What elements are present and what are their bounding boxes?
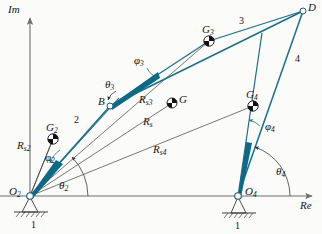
joint-d	[300, 8, 306, 14]
angle-arc-theta3	[108, 91, 116, 100]
link-number-1-right: 1	[235, 221, 240, 231]
link-number-1-left: 1	[31, 220, 36, 230]
link-number-2: 2	[74, 115, 79, 125]
joint-o2	[27, 193, 34, 200]
link-4-local-axis	[238, 33, 262, 197]
mass-center-g2	[48, 134, 58, 144]
angle-label-phi3: φ3	[134, 55, 144, 68]
joint-label-o4: O4	[245, 186, 257, 199]
mass-center-label-g3: G3	[202, 24, 214, 37]
ground-support-o2	[14, 197, 48, 217]
joint-o4	[235, 193, 242, 200]
link-number-3: 3	[239, 16, 244, 26]
joint-label-o2: O2	[9, 186, 21, 199]
mass-center-label-g4: G4	[246, 89, 258, 102]
linkage-diagram-svg	[0, 0, 322, 234]
angle-label-theta3: θ3	[105, 79, 114, 92]
re-axis-label: Re	[300, 200, 312, 211]
mass-center-g	[167, 98, 177, 108]
angle-label-phi2: φ2	[45, 152, 55, 165]
joint-b	[107, 103, 113, 109]
vector-label-rs2: Rs2	[17, 140, 30, 153]
joint-label-d: D	[308, 2, 316, 13]
mass-center-g3	[204, 36, 214, 46]
im-axis-label: Im	[8, 4, 20, 15]
figure-canvas: Im Re O2 B D O4 G2 G3 G4 G 1 1 2 3 4 Rs2…	[0, 0, 322, 234]
mass-center-g4	[248, 101, 258, 111]
angle-arc-phi4	[249, 120, 260, 126]
vector-label-rs3: Rs3	[139, 94, 152, 107]
mass-center-label-g: G	[179, 94, 187, 105]
link-2	[30, 98, 119, 198]
position-vector-rs3	[30, 41, 209, 196]
mass-center-label-g2: G2	[46, 122, 58, 135]
angle-label-theta4: θ4	[276, 166, 285, 179]
angle-label-theta2: θ2	[59, 180, 68, 193]
vector-label-rs: Rs	[143, 116, 153, 129]
angle-label-phi4: φ4	[265, 121, 275, 134]
link-number-4: 4	[295, 54, 300, 64]
vector-label-rs4: Rs4	[153, 144, 166, 157]
link-3-shaded-body	[110, 72, 160, 110]
joint-label-b: B	[98, 96, 105, 107]
ground-support-o4	[222, 197, 256, 218]
